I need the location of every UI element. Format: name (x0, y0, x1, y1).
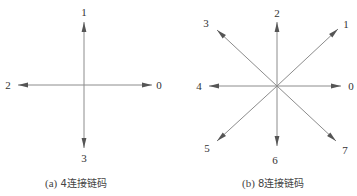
direction-label-6: 6 (272, 154, 278, 166)
caption-text: 8连接链码 (258, 178, 304, 189)
direction-arrow-3 (217, 30, 277, 86)
four-connectivity-panel: 0123 (5, 6, 162, 164)
direction-label-7: 7 (342, 144, 348, 156)
direction-label-0: 0 (156, 79, 162, 91)
direction-label-3: 3 (81, 152, 87, 164)
chain-code-diagram: 0123 01234567 (0, 0, 357, 196)
direction-arrow-5 (217, 86, 277, 141)
caption-prefix: (b) (242, 177, 255, 189)
direction-label-3: 3 (203, 17, 209, 29)
caption-eight-connectivity: (b) 8连接链码 (242, 175, 304, 190)
direction-label-4: 4 (196, 80, 202, 92)
caption-four-connectivity: (a) 4连接链码 (45, 175, 107, 190)
caption-prefix: (a) (45, 177, 57, 189)
direction-arrow-7 (277, 86, 336, 141)
direction-label-2: 2 (5, 79, 11, 91)
direction-arrow-1 (277, 29, 338, 86)
caption-text: 4连接链码 (60, 178, 106, 189)
direction-label-1: 1 (343, 18, 349, 30)
direction-label-2: 2 (274, 7, 280, 19)
direction-label-5: 5 (204, 142, 210, 154)
eight-connectivity-panel: 01234567 (196, 7, 354, 166)
direction-label-0: 0 (348, 80, 354, 92)
direction-label-1: 1 (81, 6, 87, 18)
